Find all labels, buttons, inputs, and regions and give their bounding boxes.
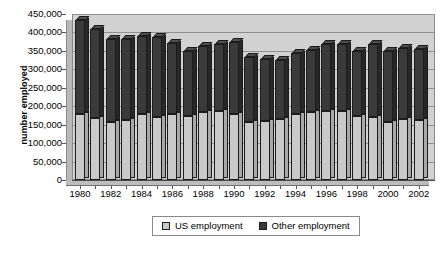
bar-segment-other-1989[interactable]	[214, 44, 224, 111]
bar-segment-other-1993[interactable]	[275, 60, 285, 119]
bar-segment-us-1989[interactable]	[214, 111, 224, 180]
bar-side-other-1984	[147, 34, 151, 113]
bar-segment-other-1983[interactable]	[121, 39, 131, 120]
bar-segment-other-1984[interactable]	[137, 36, 147, 115]
bar-segment-us-1982[interactable]	[106, 122, 116, 180]
bar-group-1989[interactable]	[214, 14, 224, 180]
bar-side-other-1985	[162, 35, 166, 115]
bar-segment-other-1990[interactable]	[229, 42, 239, 114]
bar-group-1987[interactable]	[183, 14, 193, 180]
bar-segment-other-1981[interactable]	[90, 29, 100, 118]
y-axis-tick-labels: 050,000100,000150,000200,000250,000300,0…	[0, 0, 62, 254]
bar-segment-us-1983[interactable]	[121, 120, 131, 180]
y-tick-350000: 350,000	[0, 46, 62, 56]
bar-segment-other-2001[interactable]	[398, 48, 408, 119]
bar-group-2002[interactable]	[414, 14, 424, 180]
bar-group-2001[interactable]	[398, 14, 408, 180]
bar-group-1980[interactable]	[75, 14, 85, 180]
bar-segment-us-1999[interactable]	[368, 117, 378, 180]
bar-group-1990[interactable]	[229, 14, 239, 180]
bar-segment-us-1993[interactable]	[275, 119, 285, 180]
bar-side-us-1998	[362, 114, 366, 178]
bar-side-other-1994	[301, 51, 305, 112]
bar-side-other-2000	[393, 49, 397, 120]
bar-group-1996[interactable]	[321, 14, 331, 180]
bar-segment-us-1987[interactable]	[183, 116, 193, 180]
chart-legend: US employment Other employment	[152, 216, 360, 236]
bar-segment-us-1984[interactable]	[137, 114, 147, 180]
y-tick-150000: 150,000	[0, 120, 62, 130]
bar-segment-other-2002[interactable]	[414, 49, 424, 120]
bar-side-other-1988	[208, 44, 212, 110]
bar-side-other-1980	[85, 18, 89, 113]
employment-stacked-bar-chart: number employed 050,000100,000150,000200…	[0, 0, 447, 254]
bar-segment-other-1994[interactable]	[291, 53, 301, 114]
bar-group-1992[interactable]	[260, 14, 270, 180]
bar-group-1995[interactable]	[306, 14, 316, 180]
y-tick-label: 200,000	[8, 101, 62, 111]
bar-segment-other-1996[interactable]	[321, 44, 331, 112]
bar-segment-us-1994[interactable]	[291, 114, 301, 180]
bar-segment-other-1995[interactable]	[306, 50, 316, 112]
bar-segment-us-1990[interactable]	[229, 114, 239, 180]
bar-segment-other-1988[interactable]	[198, 46, 208, 112]
bar-group-1994[interactable]	[291, 14, 301, 180]
bar-group-1998[interactable]	[352, 14, 362, 180]
bar-side-us-1982	[116, 120, 120, 178]
bar-segment-us-1985[interactable]	[152, 117, 162, 180]
bar-segment-other-1997[interactable]	[337, 44, 347, 112]
bar-group-1982[interactable]	[106, 14, 116, 180]
y-tick-label: 450,000	[8, 9, 62, 19]
bar-segment-other-1999[interactable]	[368, 44, 378, 118]
bar-side-us-1983	[131, 118, 135, 178]
y-tick-200000: 200,000	[0, 101, 62, 111]
bar-segment-other-1991[interactable]	[244, 57, 254, 122]
bar-group-1986[interactable]	[167, 14, 177, 180]
bar-segment-other-2000[interactable]	[383, 51, 393, 122]
bar-group-2000[interactable]	[383, 14, 393, 180]
bar-side-other-1990	[239, 40, 243, 112]
bar-segment-other-1986[interactable]	[167, 43, 177, 114]
bar-group-1984[interactable]	[137, 14, 147, 180]
bar-side-us-1993	[285, 117, 289, 178]
bar-side-other-2002	[424, 47, 428, 118]
bar-segment-other-1998[interactable]	[352, 51, 362, 116]
bar-segment-us-1995[interactable]	[306, 112, 316, 180]
bar-segment-us-1996[interactable]	[321, 111, 331, 180]
y-tick-label: 100,000	[8, 138, 62, 148]
bar-segment-us-1997[interactable]	[337, 111, 347, 180]
bar-group-1997[interactable]	[337, 14, 347, 180]
legend-label-us: US employment	[175, 221, 243, 231]
legend-item-other-employment: Other employment	[259, 221, 350, 231]
y-tick-400000: 400,000	[0, 27, 62, 37]
bar-segment-us-1981[interactable]	[90, 118, 100, 180]
bar-group-1988[interactable]	[198, 14, 208, 180]
bar-side-us-1997	[347, 109, 351, 178]
bar-side-us-1988	[208, 110, 212, 178]
bar-segment-us-1980[interactable]	[75, 114, 85, 180]
bar-segment-us-2002[interactable]	[414, 120, 424, 180]
bar-segment-us-1988[interactable]	[198, 112, 208, 180]
bar-segment-us-2001[interactable]	[398, 119, 408, 180]
bar-segment-us-1991[interactable]	[244, 122, 254, 180]
bar-segment-other-1982[interactable]	[106, 39, 116, 122]
bar-group-1985[interactable]	[152, 14, 162, 180]
bar-segment-other-1987[interactable]	[183, 51, 193, 116]
bar-side-other-1993	[285, 58, 289, 117]
bar-segment-other-1985[interactable]	[152, 37, 162, 117]
bar-group-1991[interactable]	[244, 14, 254, 180]
bar-segment-us-1986[interactable]	[167, 114, 177, 180]
bar-group-1983[interactable]	[121, 14, 131, 180]
bar-segment-us-2000[interactable]	[383, 122, 393, 180]
bar-segment-us-1998[interactable]	[352, 116, 362, 180]
bar-side-us-1996	[331, 109, 335, 178]
bar-side-us-1987	[193, 114, 197, 178]
bar-group-1993[interactable]	[275, 14, 285, 180]
bar-group-1981[interactable]	[90, 14, 100, 180]
bar-segment-us-1992[interactable]	[260, 121, 270, 180]
bar-segment-other-1980[interactable]	[75, 20, 85, 115]
bar-side-other-1983	[131, 37, 135, 118]
bar-segment-other-1992[interactable]	[260, 59, 270, 121]
bar-group-1999[interactable]	[368, 14, 378, 180]
plot-area	[66, 14, 435, 186]
